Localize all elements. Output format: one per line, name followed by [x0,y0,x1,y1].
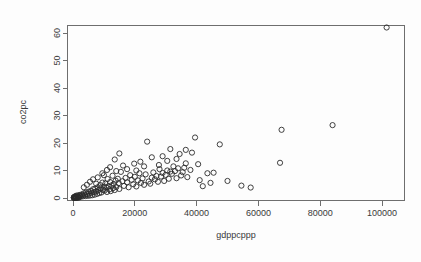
y-tick-label: 50 [52,55,62,65]
scatter-plot-figure: 020000400006000080000100000 010203040506… [0,0,421,262]
y-tick-label: 30 [52,110,62,120]
y-tick-label: 0 [52,195,62,200]
data-point-marker [132,161,137,166]
x-tick-label: 40000 [184,208,209,218]
data-point-marker [197,178,202,183]
data-point-marker [168,146,173,151]
data-point-marker [151,170,156,175]
data-point-marker [174,176,179,181]
y-tick-label: 10 [52,165,62,175]
data-point-marker [112,157,117,162]
data-point-marker [110,173,115,178]
x-tick-label: 60000 [246,208,271,218]
data-point-marker [117,151,122,156]
plot-frame [68,26,405,201]
data-point-marker [208,180,213,185]
data-point-marker [141,164,146,169]
data-point-marker [174,156,179,161]
x-tick-label: 100000 [367,208,397,218]
y-tick-label: 60 [52,28,62,38]
data-points-layer [71,25,389,201]
data-point-marker [145,139,150,144]
data-point-marker [225,178,230,183]
data-point-marker [217,142,222,147]
x-axis: 020000400006000080000100000 [70,201,397,218]
y-tick-label: 20 [52,138,62,148]
data-point-marker [188,167,193,172]
data-point-marker [330,123,335,128]
data-point-marker [189,150,194,155]
data-point-marker [138,159,143,164]
data-point-marker [160,154,165,159]
y-axis: 0102030405060 [52,28,68,201]
data-point-marker [239,183,244,188]
data-point-marker [177,151,182,156]
x-axis-title: gdppcppp [216,230,256,240]
data-point-marker [211,170,216,175]
data-point-marker [277,160,282,165]
data-point-marker [185,175,190,180]
data-point-marker [205,171,210,176]
y-axis-title: co2pc [18,99,28,124]
x-tick-label: 20000 [122,208,147,218]
data-point-marker [248,185,253,190]
plot-canvas: 020000400006000080000100000 010203040506… [0,0,421,262]
x-tick-label: 0 [70,208,75,218]
data-point-marker [124,167,129,172]
data-point-marker [200,184,205,189]
data-point-marker [171,164,176,169]
plot-box [68,26,405,201]
data-point-marker [149,155,154,160]
data-point-marker [192,135,197,140]
data-point-marker [196,162,201,167]
y-tick-label: 40 [52,83,62,93]
data-point-marker [279,127,284,132]
data-point-marker [183,147,188,152]
data-point-marker [165,158,170,163]
x-tick-label: 80000 [308,208,333,218]
